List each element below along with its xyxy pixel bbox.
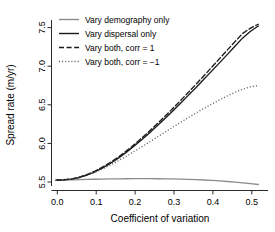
legend-label-3: Vary both, corr = −1 [85, 57, 160, 67]
chart-legend: Vary demography only Vary dispersal only… [59, 15, 170, 67]
y-tick-label-6-0: 6.0 [37, 137, 47, 150]
x-tick-label-0-4: 0.4 [207, 197, 220, 207]
y-tick-label-5-5: 5.5 [37, 176, 47, 189]
series-line-vary-demography-only [56, 179, 258, 185]
y-tick-marks [48, 28, 52, 182]
y-tick-label-6-5: 6.5 [37, 99, 47, 112]
legend-label-0: Vary demography only [85, 15, 170, 25]
y-tick-label-7-5: 7.5 [37, 21, 47, 34]
chart-figure: 5.5 6.0 6.5 7.0 7.5 0.0 0.1 0.2 0.3 0.4 … [0, 0, 275, 232]
x-tick-label-0-5: 0.5 [246, 197, 259, 207]
x-tick-label-0-2: 0.2 [129, 197, 142, 207]
x-tick-label-0-1: 0.1 [90, 197, 103, 207]
x-tick-marks [57, 191, 252, 195]
legend-label-1: Vary dispersal only [85, 29, 157, 39]
x-tick-label-0-0: 0.0 [51, 197, 64, 207]
x-axis-title: Coefficient of variation [111, 213, 210, 224]
y-axis-title: Spread rate (m/yr) [5, 64, 16, 145]
legend-label-2: Vary both, corr = 1 [85, 43, 155, 53]
y-tick-label-7-0: 7.0 [37, 60, 47, 73]
x-tick-label-0-3: 0.3 [168, 197, 181, 207]
series-line-vary-both-corr-neg1 [56, 86, 258, 181]
line-chart: 5.5 6.0 6.5 7.0 7.5 0.0 0.1 0.2 0.3 0.4 … [0, 0, 275, 232]
